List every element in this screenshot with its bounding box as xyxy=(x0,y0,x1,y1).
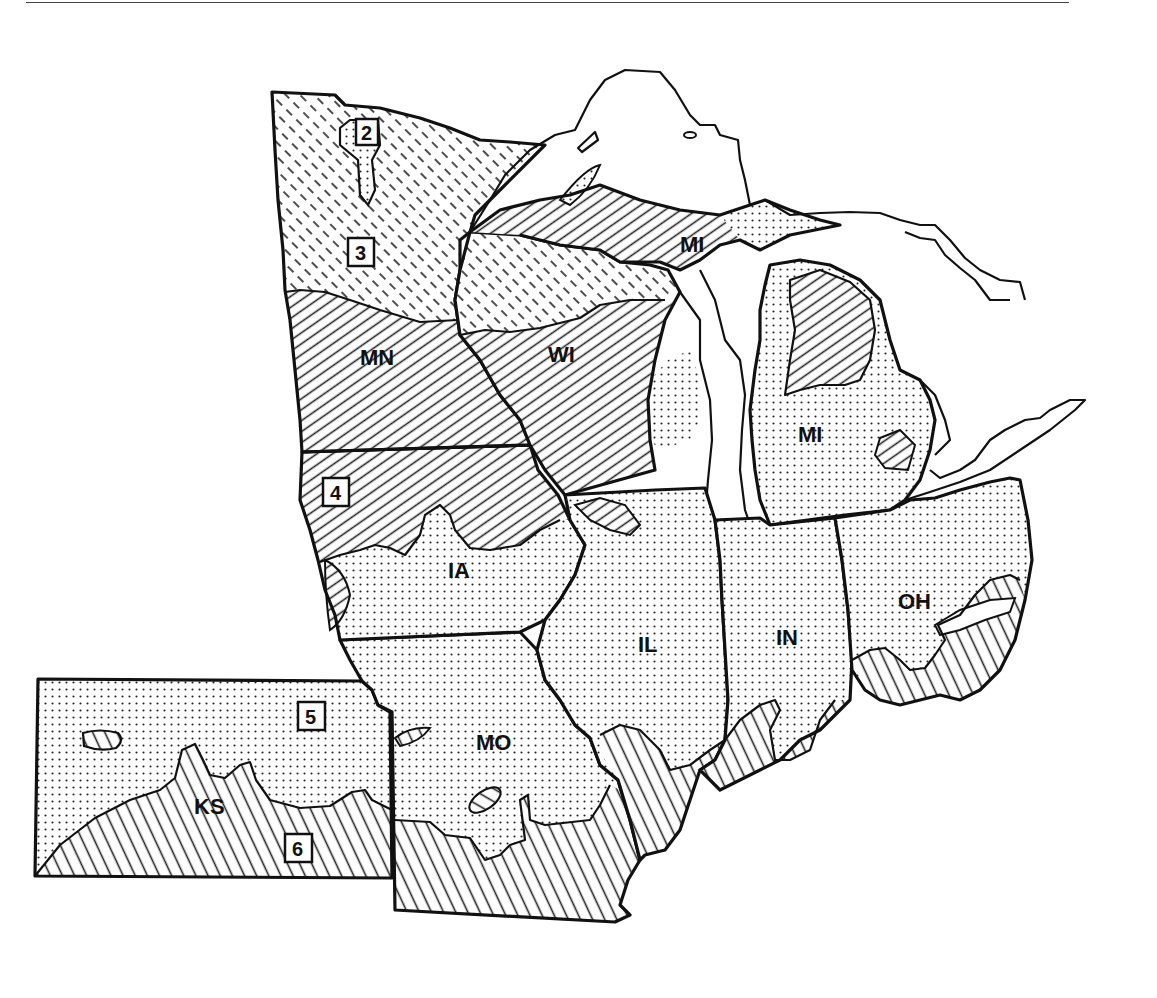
zone-box-5: 5 xyxy=(298,702,325,730)
label-il: IL xyxy=(638,632,658,657)
label-in: IN xyxy=(776,625,798,650)
state-michigan-lower xyxy=(680,260,935,530)
label-mi-upper: MI xyxy=(680,232,704,257)
svg-text:5: 5 xyxy=(305,706,316,728)
svg-text:3: 3 xyxy=(355,242,366,264)
svg-text:6: 6 xyxy=(292,838,303,860)
label-ks: KS xyxy=(194,794,225,819)
label-oh: OH xyxy=(898,589,931,614)
label-mo: MO xyxy=(476,730,511,755)
zone-box-2: 2 xyxy=(356,119,378,145)
svg-text:4: 4 xyxy=(330,482,342,504)
label-ia: IA xyxy=(448,558,470,583)
state-iowa xyxy=(300,445,585,640)
zone-box-4: 4 xyxy=(323,478,349,506)
zone-box-3: 3 xyxy=(348,238,374,266)
zone-box-6: 6 xyxy=(285,834,312,862)
label-wi: WI xyxy=(548,342,575,367)
zone-map: MN WI MI MI IA IL IN OH MO KS 2 3 4 5 6 xyxy=(0,0,1157,998)
label-mn: MN xyxy=(360,345,394,370)
svg-text:2: 2 xyxy=(361,122,372,144)
state-kansas xyxy=(35,679,392,878)
label-mi: MI xyxy=(798,422,822,447)
